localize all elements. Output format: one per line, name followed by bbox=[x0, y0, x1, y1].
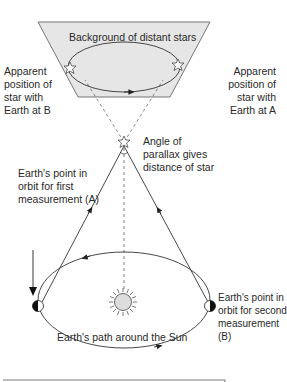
point-b-label: Earth's point in orbit for second measur… bbox=[218, 291, 287, 343]
near-star-icon bbox=[118, 136, 130, 148]
point-a-label: Earth's point in orbit for first measure… bbox=[18, 167, 99, 206]
sun-icon bbox=[109, 288, 137, 316]
orbit-label: Earth's path around the Sun bbox=[57, 331, 187, 344]
earth-b-icon bbox=[205, 301, 216, 312]
apparent-position-b-label: Apparent position of star with Earth at … bbox=[4, 65, 52, 117]
earth-a-icon bbox=[33, 301, 44, 312]
apparent-position-a-label: Apparent position of star with Earth at … bbox=[228, 65, 276, 117]
parallax-angle-arc bbox=[120, 152, 128, 154]
background-label: Background of distant stars bbox=[69, 31, 196, 44]
parallax-angle-label: Angle of parallax gives distance of star bbox=[143, 135, 214, 174]
